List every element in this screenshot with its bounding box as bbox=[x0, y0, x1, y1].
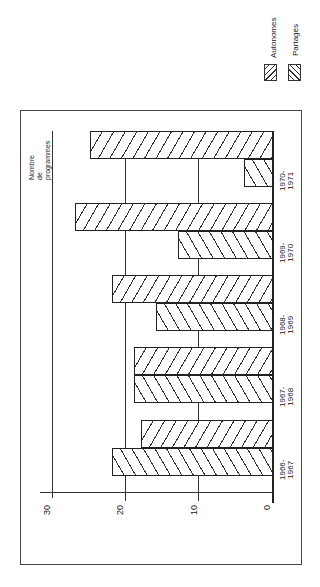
bar-autonomes-1970-1971 bbox=[244, 159, 273, 187]
category-label-1969-1970: 1969-1970 bbox=[279, 243, 295, 263]
gridline-20 bbox=[125, 131, 126, 501]
category-label-1968-1969: 1968-1969 bbox=[279, 315, 295, 335]
tick-label-20: 20 bbox=[116, 505, 125, 515]
legend-swatch-partages bbox=[288, 64, 301, 81]
tick-label-30: 30 bbox=[43, 505, 52, 515]
bar-autonomes-1968-1969 bbox=[156, 303, 273, 331]
tick-label-10: 10 bbox=[190, 505, 199, 515]
bar-autonomes-1966-1967 bbox=[112, 448, 273, 476]
category-label-1967-1968: 1967-1968 bbox=[279, 387, 295, 407]
category-label-1966-1967: 1966-1967 bbox=[279, 460, 295, 480]
category-label-1970-1971: 1970-1971 bbox=[279, 171, 295, 191]
y-axis-label: Nombre de programmes bbox=[28, 141, 52, 180]
legend-swatch-autonomes bbox=[264, 64, 277, 81]
bar-partages-1966-1967 bbox=[141, 420, 273, 448]
bar-partages-1967-1968 bbox=[134, 347, 273, 375]
bar-partages-1970-1971 bbox=[90, 131, 273, 159]
bar-autonomes-1967-1968 bbox=[134, 375, 273, 403]
gridline-30 bbox=[52, 131, 53, 498]
legend-label-partages: Partagés bbox=[292, 24, 300, 56]
bar-partages-1969-1970 bbox=[75, 203, 273, 231]
tick-label-0: 0 bbox=[263, 505, 272, 510]
bar-partages-1968-1969 bbox=[112, 275, 273, 303]
legend-label-autonomes: Autonomes bbox=[270, 18, 278, 58]
bar-autonomes-1969-1970 bbox=[178, 231, 273, 259]
value-axis bbox=[40, 492, 273, 493]
